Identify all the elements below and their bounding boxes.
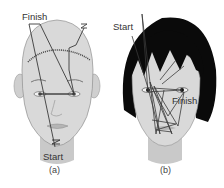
panel-b: Start Finish (b) xyxy=(112,0,224,188)
finish-label-a: Finish xyxy=(22,12,47,22)
finish-label-b: Finish xyxy=(172,96,197,106)
start-label-a: Start xyxy=(43,152,63,162)
start-label-b: Start xyxy=(113,22,133,32)
caption-a: (a) xyxy=(49,166,60,175)
panel-a: Finish Start (a) xyxy=(0,0,112,188)
caption-b: (b) xyxy=(160,166,171,175)
